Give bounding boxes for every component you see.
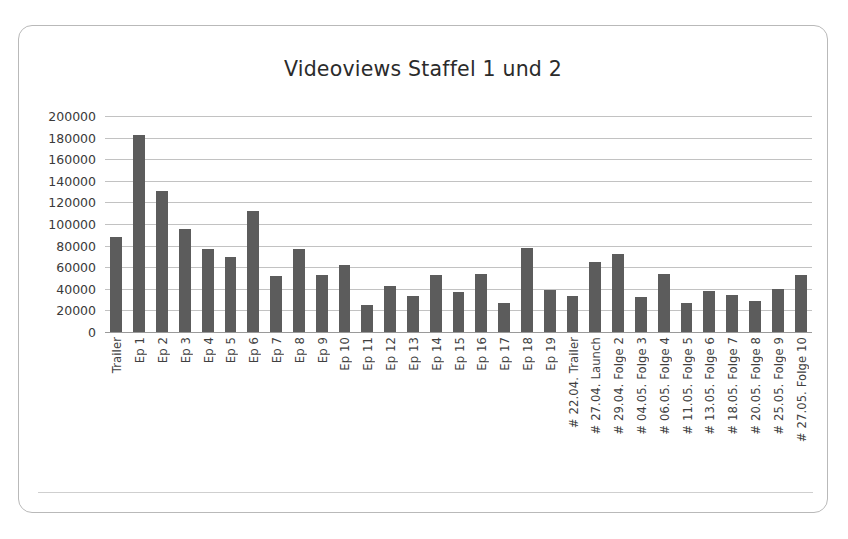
x-axis-tick-label: # 27.05. Folge 10 — [795, 337, 809, 442]
y-axis-tick-label: 160000 — [48, 152, 96, 167]
y-axis-tick-label: 80000 — [56, 238, 96, 253]
x-axis-tick-label: # 25.05. Folge 9 — [772, 337, 786, 435]
bar — [795, 275, 807, 332]
x-axis-tick-label: Ep 11 — [361, 337, 375, 371]
page-canvas: Videoviews Staffel 1 und 2 2000001800001… — [0, 0, 848, 539]
x-axis-tick-label: Ep 7 — [270, 337, 284, 363]
x-axis-tick-label: Ep 13 — [407, 337, 421, 371]
y-axis-tick-label: 0 — [88, 325, 96, 340]
x-axis-tick-label: Ep 2 — [156, 337, 170, 363]
x-axis-tick-label: # 11.05. Folge 5 — [681, 337, 695, 435]
bar — [270, 276, 282, 332]
x-axis-tick-label: # 29.04. Folge 2 — [612, 337, 626, 435]
x-axis-tick-label: Ep 16 — [475, 337, 489, 371]
bar — [384, 286, 396, 332]
x-axis-tick-label: Ep 4 — [202, 337, 216, 363]
bar — [772, 289, 784, 332]
x-axis-tick-label: Ep 14 — [430, 337, 444, 371]
x-axis-tick-label: Ep 3 — [179, 337, 193, 363]
bar — [567, 296, 579, 332]
x-axis-tick-labels: TrailerEp 1Ep 2Ep 3Ep 4Ep 5Ep 6Ep 7Ep 8E… — [105, 334, 812, 509]
chart-title: Videoviews Staffel 1 und 2 — [18, 57, 828, 81]
x-axis-tick-label: Ep 12 — [384, 337, 398, 371]
x-axis-tick-label: Ep 18 — [521, 337, 535, 371]
x-axis-tick-label: # 04.05. Folge 3 — [635, 337, 649, 435]
bar — [133, 135, 145, 332]
bar — [156, 191, 168, 332]
bar — [703, 291, 715, 332]
bar-series — [105, 116, 812, 332]
y-axis-tick-label: 200000 — [48, 109, 96, 124]
bar — [247, 211, 259, 332]
x-axis-tick-label: Ep 5 — [224, 337, 238, 363]
x-axis-tick-label: # 27.04. Launch — [589, 337, 603, 434]
bar — [430, 275, 442, 332]
bar-chart: Videoviews Staffel 1 und 2 2000001800001… — [18, 25, 828, 513]
bar — [726, 295, 738, 332]
y-axis-tick-label: 180000 — [48, 130, 96, 145]
bar — [681, 303, 693, 332]
bar — [339, 265, 351, 332]
y-axis-tick-labels: 2000001800001600001400001200001000008000… — [18, 116, 100, 332]
bar — [589, 262, 601, 332]
x-axis-tick-label: Ep 9 — [316, 337, 330, 363]
bar — [475, 274, 487, 332]
x-axis-tick-label: Ep 17 — [498, 337, 512, 371]
y-axis-tick-label: 40000 — [56, 281, 96, 296]
x-axis-tick-label: Ep 1 — [133, 337, 147, 363]
bar — [635, 297, 647, 332]
bar — [202, 249, 214, 332]
x-axis-tick-label: Ep 6 — [247, 337, 261, 363]
x-axis-tick-label: Ep 15 — [453, 337, 467, 371]
bar — [316, 275, 328, 332]
x-axis-tick-label: # 22.04. Trailer — [567, 337, 581, 428]
x-axis-tick-label: # 06.05. Folge 4 — [658, 337, 672, 435]
bar — [361, 305, 373, 332]
y-axis-tick-label: 60000 — [56, 260, 96, 275]
bar — [658, 274, 670, 332]
bar — [225, 257, 237, 332]
bar — [544, 290, 556, 332]
x-axis-baseline — [105, 332, 812, 333]
y-axis-tick-label: 140000 — [48, 173, 96, 188]
x-axis-tick-label: Ep 10 — [338, 337, 352, 371]
x-axis-tick-label: # 13.05. Folge 6 — [703, 337, 717, 435]
bar — [521, 248, 533, 332]
bar — [453, 292, 465, 332]
bar — [749, 301, 761, 332]
x-axis-tick-label: Trailer — [110, 337, 124, 373]
x-axis-tick-label: Ep 8 — [293, 337, 307, 363]
x-axis-tick-label: # 18.05. Folge 7 — [726, 337, 740, 435]
bar — [293, 249, 305, 332]
x-axis-tick-label: # 20.05. Folge 8 — [749, 337, 763, 435]
y-axis-tick-label: 100000 — [48, 217, 96, 232]
y-axis-tick-label: 20000 — [56, 303, 96, 318]
y-axis-tick-label: 120000 — [48, 195, 96, 210]
bar — [407, 296, 419, 332]
bar — [612, 254, 624, 332]
bar — [179, 229, 191, 332]
bar — [498, 303, 510, 332]
bar — [110, 237, 122, 332]
x-axis-tick-label: Ep 19 — [544, 337, 558, 371]
